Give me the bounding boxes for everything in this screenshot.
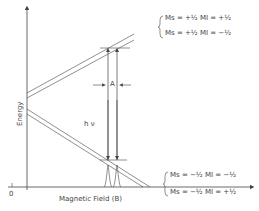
upper-level-label-2: Ms = +½ MI = −½ [165,30,231,37]
upper-level-line-2 [27,40,134,98]
x-axis-label: Magnetic Field (B) [59,196,122,203]
y-axis-label: Energy [17,101,24,126]
spectral-peak-1 [104,165,112,187]
upper-level-line-1 [27,34,134,93]
transition-label: h ν [84,121,95,128]
lower-level-label-2: Ms = −½ MI = +½ [170,189,236,196]
origin-label: 0 [9,191,13,198]
lower-brace [163,172,168,196]
lower-level-label-1: Ms = −½ MI = −½ [170,172,236,179]
splitting-label: A [110,81,115,88]
upper-level-label-1: Ms = +½ MI = +½ [165,15,231,22]
upper-brace [158,16,163,38]
spectral-peak-2 [113,165,121,187]
